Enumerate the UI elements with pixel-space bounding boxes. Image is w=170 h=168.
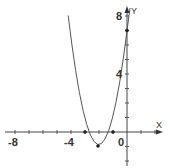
x-axis-arrow-icon xyxy=(156,130,163,135)
x-axis-label: X xyxy=(156,120,162,130)
root-point-left xyxy=(83,130,87,134)
y-tick-label-4: 4 xyxy=(116,68,123,80)
y-intercept-point xyxy=(125,29,129,33)
x-tick-label-minus8: -8 xyxy=(8,136,18,148)
x-tick-label-minus4: -4 xyxy=(64,136,75,148)
parabola-chart: -8 -4 0 4 8 X Y xyxy=(0,0,170,168)
y-tick-label-8: 8 xyxy=(116,10,122,22)
x-tick-label-0: 0 xyxy=(118,136,124,148)
root-point-right xyxy=(111,130,115,134)
vertex-point xyxy=(96,144,100,148)
y-axis-arrow-icon xyxy=(125,6,130,13)
y-axis-label: Y xyxy=(131,6,137,16)
